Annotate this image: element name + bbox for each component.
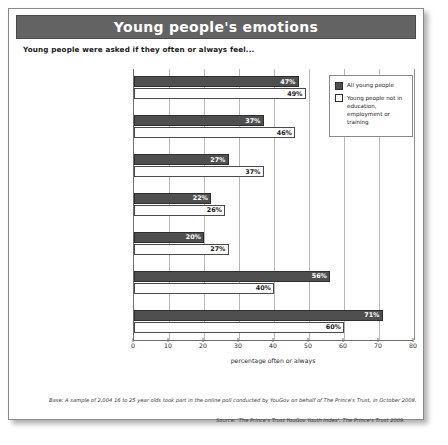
- gridline-80: [414, 69, 415, 340]
- x-tick-label-0: 0: [131, 342, 135, 349]
- x-axis-ticks: 01020304050607080: [133, 342, 413, 354]
- bar-value-label: 37%: [245, 168, 262, 176]
- bar-neet: 40%: [134, 283, 274, 294]
- page-title: Young people's emotions: [114, 19, 318, 35]
- chart-row: Sad (like crying)20%27%: [134, 224, 413, 263]
- legend-swatch-dark: [335, 82, 343, 90]
- bar-all: 27%: [134, 154, 229, 165]
- chart-row: Down/Depressed27%37%: [134, 147, 413, 186]
- bar-all: 71%: [134, 310, 383, 321]
- legend-item-all-young-people: All young people: [335, 81, 408, 90]
- bar-all: 22%: [134, 193, 211, 204]
- x-tick-label-60: 60: [339, 342, 347, 349]
- chart-row: Excited56%40%: [134, 263, 413, 302]
- bar-all: 37%: [134, 115, 264, 126]
- bar-value-label: 56%: [312, 272, 329, 280]
- x-tick-label-20: 20: [199, 342, 207, 349]
- x-axis-label: percentage often or always: [133, 357, 413, 364]
- bar-neet: 60%: [134, 322, 344, 333]
- bar-neet: 46%: [134, 127, 295, 138]
- x-tick-label-40: 40: [269, 342, 277, 349]
- legend-label-all-young-people: All young people: [347, 81, 394, 89]
- chart-row: Happy71%60%: [134, 302, 413, 341]
- chart-title-bar: Young people's emotions: [16, 15, 416, 39]
- bar-all: 47%: [134, 76, 299, 87]
- bar-value-label: 27%: [210, 156, 227, 164]
- bar-value-label: 49%: [287, 90, 304, 98]
- base-note: Base: A sample of 2,004 16 to 25 year ol…: [49, 397, 429, 403]
- chart-legend: All young people Young people not in edu…: [329, 75, 413, 137]
- chart-row: Angry (like losing my temper)22%26%: [134, 186, 413, 225]
- bar-value-label: 20%: [186, 233, 203, 241]
- x-tick-label-50: 50: [304, 342, 312, 349]
- x-tick-label-30: 30: [234, 342, 242, 349]
- source-note: Source: 'The Prince's Trust YouGov Youth…: [216, 417, 405, 423]
- bar-all: 56%: [134, 271, 330, 282]
- bar-value-label: 37%: [245, 117, 262, 125]
- bar-neet: 26%: [134, 205, 225, 216]
- bar-value-label: 47%: [280, 78, 297, 86]
- x-tick-label-10: 10: [164, 342, 172, 349]
- bar-all: 20%: [134, 232, 204, 243]
- bar-value-label: 46%: [277, 129, 294, 137]
- legend-swatch-light: [335, 94, 343, 102]
- bar-neet: 49%: [134, 88, 306, 99]
- bar-value-label: 40%: [256, 284, 273, 292]
- bar-value-label: 60%: [326, 323, 343, 331]
- bar-value-label: 22%: [193, 194, 210, 202]
- bar-value-label: 71%: [364, 311, 381, 319]
- chart-page: Young people's emotions Young people wer…: [0, 0, 448, 445]
- chart-card: Young people's emotions Young people wer…: [8, 8, 424, 420]
- legend-item-neet: Young people not in education, employmen…: [335, 94, 408, 126]
- bar-neet: 37%: [134, 166, 264, 177]
- legend-label-neet: Young people not in education, employmen…: [347, 94, 408, 126]
- bar-neet: 27%: [134, 244, 229, 255]
- x-tick-label-80: 80: [409, 342, 417, 349]
- x-tick-label-70: 70: [374, 342, 382, 349]
- bar-value-label: 26%: [207, 206, 224, 214]
- bar-value-label: 27%: [210, 245, 227, 253]
- chart-subtitle: Young people were asked if they often or…: [23, 45, 413, 54]
